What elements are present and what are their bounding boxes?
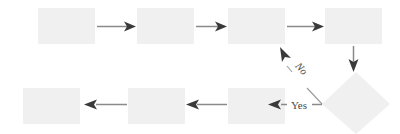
flow-edge-4 <box>349 46 359 72</box>
flow-edge-label-no: No <box>293 60 310 77</box>
flow-edge-2 <box>196 22 227 32</box>
flow-node-8[interactable] <box>23 88 80 124</box>
flow-edge-8 <box>84 100 127 110</box>
flow-node-1[interactable] <box>38 8 95 44</box>
flow-node-2[interactable] <box>137 8 194 44</box>
flow-edge-1 <box>97 22 136 32</box>
flow-node-3[interactable] <box>228 8 285 44</box>
flowchart-svg: No Yes <box>0 0 400 134</box>
flow-node-7[interactable] <box>128 88 185 124</box>
flow-edge-7 <box>186 100 227 110</box>
flow-node-decision-diamond[interactable] <box>322 72 390 134</box>
flow-edge-5-no: No <box>280 47 322 104</box>
flowchart-canvas: No Yes <box>0 0 400 134</box>
flow-edge-label-yes: Yes <box>291 99 307 111</box>
flow-node-4[interactable] <box>325 8 382 44</box>
flow-edge-3 <box>287 22 324 32</box>
